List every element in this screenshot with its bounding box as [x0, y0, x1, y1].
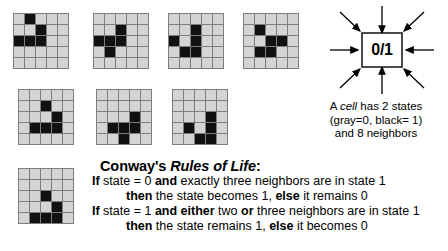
- cell-dead: [63, 90, 73, 100]
- cell-dead: [52, 180, 62, 190]
- rule1-else-kw: else: [275, 189, 299, 203]
- cell-dead: [191, 58, 201, 68]
- cell-dead: [191, 14, 201, 24]
- cell-dead: [58, 36, 68, 46]
- cell-dead: [63, 180, 73, 190]
- cell-dead: [36, 14, 46, 24]
- cell-dead: [97, 134, 107, 144]
- cell-dead: [97, 101, 107, 111]
- cell-dead: [202, 47, 212, 57]
- cell-dead: [19, 90, 29, 100]
- cell-alive: [191, 25, 201, 35]
- cell-alive: [195, 134, 205, 144]
- cell-alive: [41, 101, 51, 111]
- cell-alive: [52, 112, 62, 122]
- cell-dead: [19, 169, 29, 179]
- cell-dead: [30, 202, 40, 212]
- cell-dead: [19, 134, 29, 144]
- cell-alive: [25, 36, 35, 46]
- cell-dead: [244, 58, 254, 68]
- rule1-if-t1: state = 0: [100, 174, 155, 188]
- cell-dead: [217, 134, 227, 144]
- cell-neighbors-diagram: 0/1: [322, 4, 442, 96]
- cell-dead: [52, 191, 62, 201]
- cell-dead: [25, 58, 35, 68]
- cell-alive: [119, 123, 129, 133]
- cell-dead: [213, 14, 223, 24]
- cell-dead: [19, 101, 29, 111]
- cell-dead: [63, 134, 73, 144]
- cell-dead: [63, 101, 73, 111]
- cell-dead: [169, 47, 179, 57]
- cell-dead: [213, 58, 223, 68]
- cell-dead: [180, 36, 190, 46]
- cell-dead: [41, 180, 51, 190]
- rule2-then-t1: the state remains 1,: [152, 219, 269, 233]
- rule2-if-t2: two: [215, 204, 241, 218]
- cell-dead: [116, 47, 126, 57]
- cell-dead: [41, 134, 51, 144]
- cell-dead: [288, 36, 298, 46]
- cell-dead: [217, 112, 227, 122]
- cell-dead: [19, 213, 29, 223]
- cell-alive: [108, 123, 118, 133]
- cell-alive: [130, 112, 140, 122]
- cell-dead: [213, 47, 223, 57]
- cell-box: [362, 33, 402, 67]
- cell-dead: [288, 25, 298, 35]
- cell-alive: [52, 213, 62, 223]
- cell-dead: [184, 90, 194, 100]
- cell-dead: [138, 36, 148, 46]
- cell-dead: [58, 47, 68, 57]
- cell-caption-line-1: A cell has 2 states: [304, 100, 448, 114]
- caption-line1-post: has 2 states: [357, 100, 422, 112]
- cell-alive: [36, 25, 46, 35]
- cell-alive: [184, 123, 194, 133]
- cell-dead: [138, 25, 148, 35]
- cell-dead: [141, 112, 151, 122]
- cell-alive: [206, 134, 216, 144]
- cell-dead: [195, 101, 205, 111]
- cell-dead: [119, 112, 129, 122]
- cell-dead: [25, 25, 35, 35]
- cell-dead: [108, 101, 118, 111]
- arrow-top-left: [340, 12, 360, 31]
- cell-dead: [14, 47, 24, 57]
- rule2-if-t3: three neighbors are in state 1: [254, 204, 420, 218]
- cell-dead: [36, 58, 46, 68]
- cell-dead: [63, 112, 73, 122]
- cell-dead: [97, 123, 107, 133]
- life-grid-2: [93, 13, 149, 69]
- cell-dead: [288, 58, 298, 68]
- cell-alive: [105, 36, 115, 46]
- cell-dead: [14, 25, 24, 35]
- cell-alive: [180, 47, 190, 57]
- rule-1-result: then the state becomes 1, else it remain…: [92, 189, 448, 204]
- cell-dead: [41, 112, 51, 122]
- cell-dead: [108, 134, 118, 144]
- cell-dead: [47, 58, 57, 68]
- rule2-if-kw: If: [92, 204, 100, 218]
- rule1-if-kw: If: [92, 174, 100, 188]
- rule1-if-and: and: [155, 174, 177, 188]
- cell-dead: [105, 14, 115, 24]
- cell-dead: [277, 58, 287, 68]
- cell-dead: [277, 47, 287, 57]
- cell-alive: [105, 47, 115, 57]
- cell-dead: [19, 180, 29, 190]
- cell-dead: [47, 36, 57, 46]
- cell-dead: [277, 14, 287, 24]
- cell-dead: [52, 169, 62, 179]
- cell-dead: [217, 101, 227, 111]
- life-grid-5: [18, 89, 74, 145]
- cell-dead: [277, 25, 287, 35]
- cell-alive: [191, 47, 201, 57]
- cell-dead: [30, 101, 40, 111]
- cell-dead: [105, 58, 115, 68]
- rules-title-post: :: [256, 158, 261, 174]
- cell-dead: [19, 112, 29, 122]
- cell-dead: [52, 134, 62, 144]
- cell-dead: [41, 90, 51, 100]
- arrow-top-right: [404, 12, 424, 31]
- cell-dead: [180, 58, 190, 68]
